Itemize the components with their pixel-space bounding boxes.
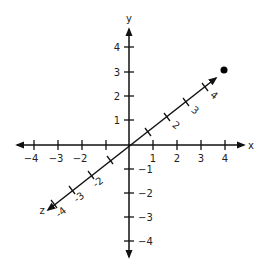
z-tick-label: 2 bbox=[170, 119, 182, 132]
x-tick-label: 1 bbox=[150, 153, 156, 164]
y-tick-label: −4 bbox=[138, 236, 153, 247]
y-tick-label: −1 bbox=[138, 164, 153, 175]
x-axis: −4 −3 −2 1 2 3 4 x bbox=[17, 140, 254, 164]
plotted-point bbox=[221, 67, 228, 74]
y-axis: 4 3 2 1 −1 −2 −3 −4 y bbox=[114, 13, 153, 257]
y-tick-label: −2 bbox=[138, 188, 153, 199]
y-axis-label: y bbox=[126, 13, 132, 24]
x-axis-label: x bbox=[248, 140, 254, 151]
y-tick-label: 2 bbox=[114, 91, 120, 102]
y-tick-label: −3 bbox=[138, 212, 153, 223]
x-tick-label: 3 bbox=[198, 153, 204, 164]
y-tick-label: 3 bbox=[114, 67, 120, 78]
x-tick-label: −4 bbox=[24, 153, 39, 164]
z-tick-label: 4 bbox=[208, 89, 220, 102]
z-tick-label: 3 bbox=[189, 104, 201, 117]
coordinate-diagram: −4 −3 −2 1 2 3 4 x 4 3 2 1 −1 −2 −3 −4 y bbox=[0, 0, 272, 270]
x-tick-label: −3 bbox=[49, 153, 64, 164]
z-axis-label: z bbox=[39, 205, 44, 216]
x-tick-label: −2 bbox=[73, 153, 88, 164]
x-tick-label: 4 bbox=[222, 153, 228, 164]
y-tick-label: 4 bbox=[114, 42, 120, 53]
y-tick-label: 1 bbox=[114, 115, 120, 126]
x-tick-label: 2 bbox=[174, 153, 180, 164]
